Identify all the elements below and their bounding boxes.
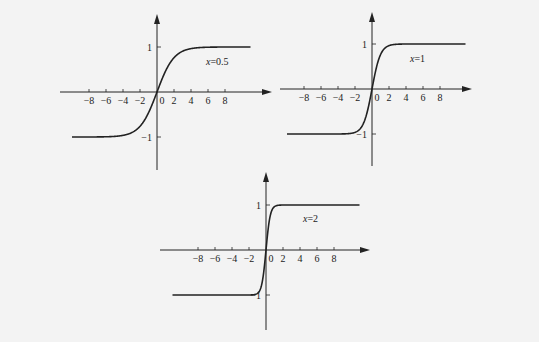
- x-tick-label: 4: [189, 95, 194, 106]
- x-tick-label: 0: [160, 95, 165, 106]
- x-tick-label: −6: [210, 253, 221, 264]
- curve-annotation: x=1: [409, 53, 425, 64]
- y-axis-arrow-icon: [154, 14, 160, 24]
- x-tick-label: −4: [118, 95, 129, 106]
- plot-k-1: −8−6−4−2024681−1x=1: [280, 12, 472, 166]
- x-tick-label: 2: [387, 92, 392, 103]
- x-tick-label: 4: [298, 253, 303, 264]
- curve-annotation: x=2: [302, 213, 318, 224]
- x-tick-label: 6: [421, 92, 426, 103]
- chart-canvas: −8−6−4−2024681−1x=0.5 −8−6−4−2024681−1x=…: [0, 0, 539, 342]
- x-tick-label: −2: [350, 92, 361, 103]
- x-tick-label: −2: [135, 95, 146, 106]
- y-axis-arrow-icon: [263, 172, 269, 182]
- x-tick-label: 6: [206, 95, 211, 106]
- curve-annotation: x=0.5: [205, 56, 229, 67]
- x-tick-label: 8: [332, 253, 337, 264]
- x-tick-label: −8: [84, 95, 95, 106]
- x-axis-arrow-icon: [360, 247, 370, 253]
- x-tick-label: −4: [333, 92, 344, 103]
- tanh-figure: −8−6−4−2024681−1x=0.5 −8−6−4−2024681−1x=…: [0, 0, 539, 342]
- x-tick-label: −4: [227, 253, 238, 264]
- plot-k-0-5: −8−6−4−2024681−1x=0.5: [60, 14, 272, 170]
- x-tick-label: 8: [223, 95, 228, 106]
- x-tick-label: −8: [299, 92, 310, 103]
- y-tick-label: 1: [147, 42, 152, 53]
- x-tick-label: −8: [193, 253, 204, 264]
- x-tick-label: 2: [172, 95, 177, 106]
- x-tick-label: 8: [438, 92, 443, 103]
- x-tick-label: 4: [404, 92, 409, 103]
- plot-k-2: −8−6−4−2024681−1x=2: [160, 172, 370, 330]
- x-tick-label: 6: [315, 253, 320, 264]
- y-tick-label: 1: [256, 200, 261, 211]
- x-axis-arrow-icon: [262, 89, 272, 95]
- x-tick-label: 0: [375, 92, 380, 103]
- y-tick-label: 1: [362, 39, 367, 50]
- y-tick-label: −1: [141, 132, 152, 143]
- x-tick-label: 0: [269, 253, 274, 264]
- x-tick-label: −2: [244, 253, 255, 264]
- x-tick-label: −6: [316, 92, 327, 103]
- x-tick-label: 2: [281, 253, 286, 264]
- x-axis-arrow-icon: [462, 86, 472, 92]
- y-axis-arrow-icon: [369, 12, 375, 22]
- x-tick-label: −6: [101, 95, 112, 106]
